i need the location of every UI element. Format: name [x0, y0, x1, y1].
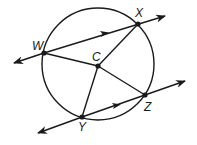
segment-cz: [98, 66, 145, 95]
label-z: Z: [143, 100, 152, 114]
point-z: [142, 92, 147, 97]
segment-cw: [44, 53, 98, 66]
point-x: [135, 21, 140, 26]
label-w: W: [32, 39, 45, 53]
line-yz-left-ray: [38, 117, 82, 133]
label-x: X: [134, 6, 144, 20]
line-yz: [82, 81, 185, 117]
label-y: Y: [78, 120, 87, 134]
label-c: C: [92, 50, 101, 64]
point-c: [95, 63, 100, 68]
circle-diagram: W X C Z Y: [0, 0, 197, 145]
point-y: [79, 114, 84, 119]
line-wx-left-ray: [14, 53, 44, 63]
segment-cy: [82, 66, 98, 117]
